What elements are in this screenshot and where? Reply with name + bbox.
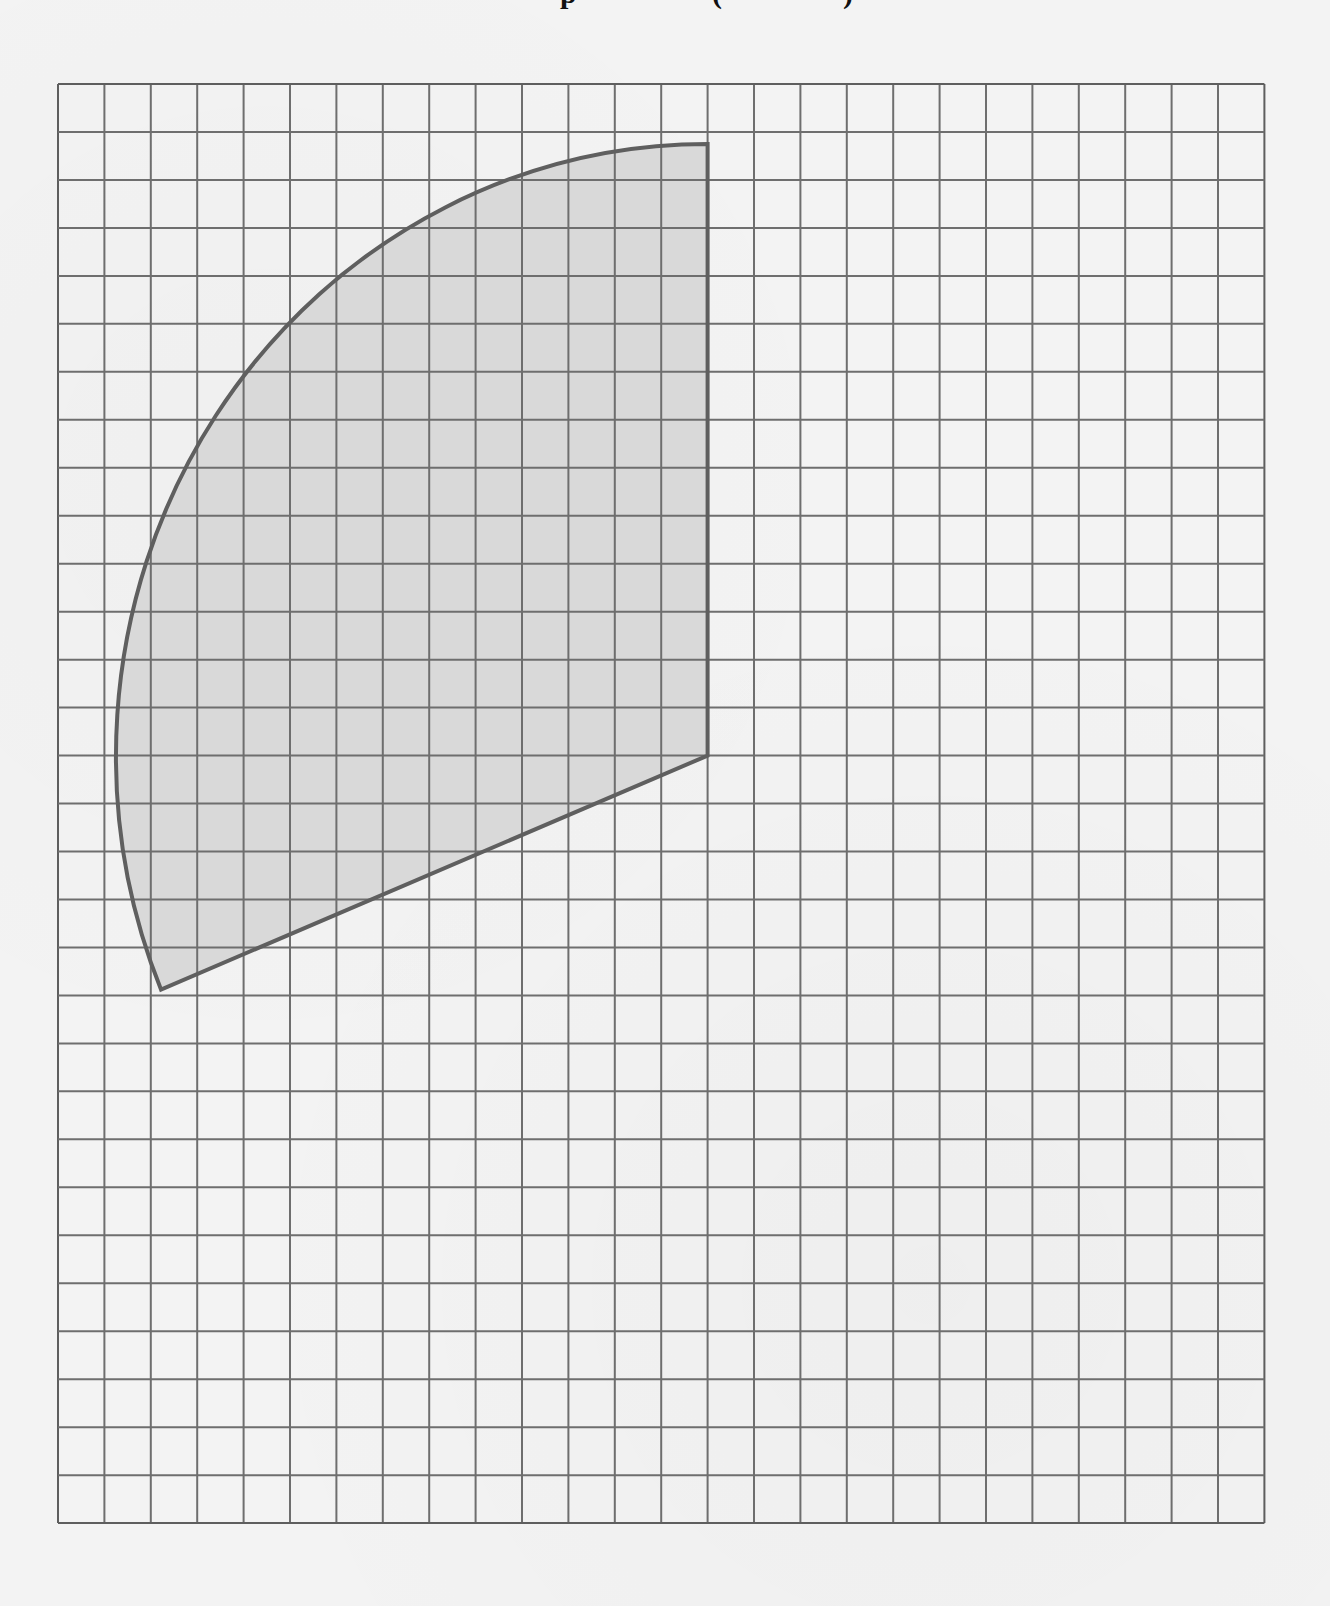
grid-figure — [0, 0, 1330, 1606]
graph-paper-grid — [58, 84, 1264, 1523]
sector-shape-layer — [116, 144, 708, 990]
sector-fill — [116, 144, 708, 990]
